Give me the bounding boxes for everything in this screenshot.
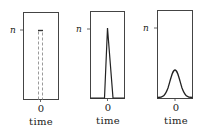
- x-axis-label: time: [21, 117, 61, 127]
- panel-frame: [24, 13, 59, 100]
- y-label-n: n: [143, 23, 149, 33]
- y-label-n: n: [76, 24, 82, 34]
- rect-pulse-curve: [39, 31, 43, 100]
- panel-rect-pulse: [20, 13, 59, 103]
- panel-narrow-spike: [87, 12, 125, 102]
- x-axis-label: time: [88, 116, 128, 126]
- gaussian-curve: [158, 70, 193, 98]
- panel-frame: [158, 11, 193, 99]
- panel-frame: [91, 12, 125, 99]
- spike-curve: [91, 28, 125, 98]
- x-axis-label: time: [156, 116, 196, 126]
- y-label-n: n: [10, 25, 16, 35]
- x-tick-zero: 0: [166, 103, 186, 113]
- x-tick-zero: 0: [31, 104, 51, 114]
- panel-gaussian: [154, 11, 193, 102]
- x-tick-zero: 0: [98, 103, 118, 113]
